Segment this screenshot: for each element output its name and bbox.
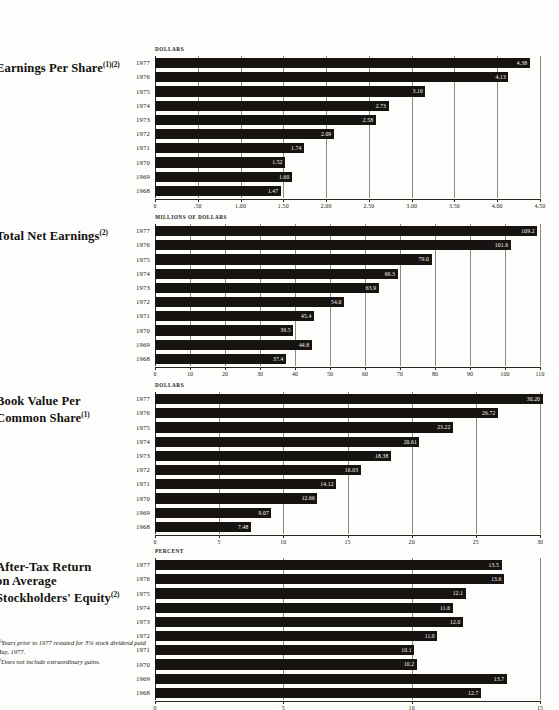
axis-tick xyxy=(155,701,156,704)
chart-title-earnings-per-share: Earnings Per Share(1)(2) xyxy=(0,58,136,75)
axis-tick xyxy=(540,701,541,704)
year-label: 1977 xyxy=(136,227,150,234)
bar-value-label: 9.07 xyxy=(259,510,272,516)
bar-value-label: 13.7 xyxy=(494,676,507,682)
bar: 79.0 xyxy=(155,254,432,264)
bar-value-label: 4.38 xyxy=(517,60,530,66)
axis-tick-label: 25 xyxy=(473,539,479,545)
axis-tick xyxy=(155,367,156,370)
grid-area: 197713.5197613.6197512.1197411.6197312.0… xyxy=(155,558,540,700)
axis-tick xyxy=(348,535,349,538)
axis-tick xyxy=(505,367,506,370)
bar-value-label: 7.48 xyxy=(238,524,251,530)
bar-value-label: 101.6 xyxy=(495,242,511,248)
bar: 4.38 xyxy=(155,58,530,68)
axis-tick xyxy=(330,367,331,370)
year-label: 1974 xyxy=(136,438,150,445)
axis-tick-label: 15 xyxy=(344,539,350,545)
year-label: 1976 xyxy=(136,73,150,80)
bar: 69.3 xyxy=(155,269,398,279)
bar: 12.7 xyxy=(155,688,481,698)
plot-area-after-tax-return-on-average-stockholders-equity: PERCENT197713.5197613.6197512.1197411.61… xyxy=(155,558,540,700)
bar-value-label: 11.0 xyxy=(425,633,438,639)
axis-line xyxy=(155,199,540,200)
grid-area: 19774.3819764.1319753.1619742.7319732.58… xyxy=(155,56,540,198)
bar: 2.09 xyxy=(155,129,334,139)
axis-tick-label: 2.00 xyxy=(321,203,332,209)
year-label: 1972 xyxy=(136,298,150,305)
axis-tick-label: 3.50 xyxy=(449,203,460,209)
bar-value-label: 18.38 xyxy=(375,453,391,459)
bar: 101.6 xyxy=(155,240,511,250)
year-label: 1973 xyxy=(136,116,150,123)
bar-value-label: 39.5 xyxy=(280,327,293,333)
plot-area-earnings-per-share: DOLLARS19774.3819764.1319753.1619742.731… xyxy=(155,56,540,198)
unit-caption: DOLLARS xyxy=(155,382,184,388)
bar-value-label: 45.4 xyxy=(301,313,314,319)
bar-value-label: 54.0 xyxy=(331,299,344,305)
axis-tick-label: 50 xyxy=(327,371,333,377)
axis-tick-label: 0 xyxy=(153,705,156,710)
axis-tick-label: 5 xyxy=(282,705,285,710)
axis-tick-label: 5 xyxy=(218,539,221,545)
year-label: 1969 xyxy=(136,173,150,180)
bar: 14.12 xyxy=(155,479,336,489)
grid-area: 197730.20197626.72197523.22197420.611973… xyxy=(155,392,540,534)
bar-value-label: 2.58 xyxy=(363,117,376,123)
bar-value-label: 2.09 xyxy=(321,131,334,137)
bar: 10.1 xyxy=(155,645,414,655)
year-label: 1975 xyxy=(136,256,150,263)
bar-value-label: 79.0 xyxy=(419,256,432,262)
bar-value-label: 12.66 xyxy=(302,495,318,501)
unit-caption: PERCENT xyxy=(155,548,184,554)
axis-tick xyxy=(540,535,541,538)
chart-title-line: Common Share xyxy=(0,411,81,425)
bar: 1.74 xyxy=(155,143,304,153)
axis-tick xyxy=(155,199,156,202)
axis-tick-label: 20 xyxy=(409,539,415,545)
year-label: 1973 xyxy=(136,284,150,291)
chart-title-total-net-earnings: Total Net Earnings(2) xyxy=(0,226,136,243)
annual-report-charts-page: Earnings Per Share(1)(2)DOLLARS19774.381… xyxy=(0,0,559,710)
year-label: 1976 xyxy=(136,409,150,416)
year-label: 1977 xyxy=(136,59,150,66)
axis-tick xyxy=(540,199,541,202)
bar: 54.0 xyxy=(155,297,344,307)
axis-tick xyxy=(400,367,401,370)
axis-tick-label: 0 xyxy=(153,371,156,377)
axis-tick xyxy=(225,367,226,370)
bar-value-label: 1.60 xyxy=(279,174,292,180)
bar: 109.2 xyxy=(155,226,537,236)
axis-tick-label: 0 xyxy=(153,539,156,545)
bar-value-label: 109.2 xyxy=(521,228,537,234)
year-label: 1970 xyxy=(136,495,150,502)
chart-title-footnote-marker: (2) xyxy=(100,229,108,237)
bar: 9.07 xyxy=(155,508,271,518)
axis-tick xyxy=(497,199,498,202)
bar: 1.52 xyxy=(155,157,285,167)
bar-value-label: 16.03 xyxy=(345,467,361,473)
bar: 39.5 xyxy=(155,325,293,335)
bar-value-label: 30.20 xyxy=(527,396,543,402)
bar: 12.66 xyxy=(155,493,317,503)
axis-tick-label: 100 xyxy=(500,371,509,377)
bar-value-label: 1.47 xyxy=(268,188,281,194)
bar-value-label: 20.61 xyxy=(404,439,420,445)
bar-value-label: 2.73 xyxy=(376,103,389,109)
axis-tick xyxy=(435,367,436,370)
chart-title-line: Book Value Per xyxy=(0,394,81,408)
year-label: 1976 xyxy=(136,575,150,582)
axis-tick-label: 110 xyxy=(535,371,544,377)
axis-tick-label: 30 xyxy=(537,539,543,545)
bar-value-label: 13.5 xyxy=(489,562,502,568)
bar-value-label: 44.8 xyxy=(299,342,312,348)
bar-value-label: 26.72 xyxy=(482,410,498,416)
axis-tick xyxy=(283,535,284,538)
axis-tick-label: 90 xyxy=(467,371,473,377)
bar-value-label: 37.4 xyxy=(273,356,286,362)
bar-value-label: 3.16 xyxy=(412,88,425,94)
chart-title-after-tax-return-on-average-stockholders-equity: After-Tax Returnon AverageStockholders' … xyxy=(0,560,136,606)
axis-tick xyxy=(326,199,327,202)
axis-tick xyxy=(295,367,296,370)
axis-tick xyxy=(470,367,471,370)
